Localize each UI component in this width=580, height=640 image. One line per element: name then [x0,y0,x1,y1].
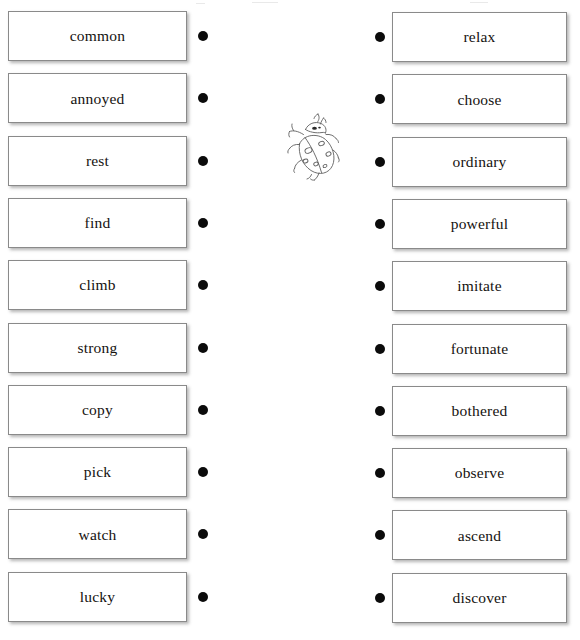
word-card-climb[interactable]: climb [8,260,187,310]
word-card-discover[interactable]: discover [392,573,567,623]
word-label: pick [84,464,112,480]
ladybug-icon [285,110,343,184]
word-label: imitate [457,278,501,294]
word-label: strong [78,340,118,356]
match-bullet-find[interactable] [198,218,208,228]
word-label: climb [79,277,115,293]
match-bullet-climb[interactable] [198,280,208,290]
word-card-copy[interactable]: copy [8,385,187,435]
word-card-bothered[interactable]: bothered [392,386,567,436]
match-bullet-imitate[interactable] [375,281,385,291]
word-card-relax[interactable]: relax [392,12,567,62]
match-bullet-rest[interactable] [198,156,208,166]
word-card-strong[interactable]: strong [8,323,187,373]
match-bullet-ascend[interactable] [375,530,385,540]
word-label: rest [86,153,109,169]
word-card-pick[interactable]: pick [8,447,187,497]
match-bullet-pick[interactable] [198,467,208,477]
match-bullet-lucky[interactable] [198,592,208,602]
word-label: annoyed [71,91,125,107]
match-bullet-watch[interactable] [198,529,208,539]
word-label: choose [457,92,501,108]
word-card-ascend[interactable]: ascend [392,510,567,560]
scan-artifact [470,2,488,3]
word-card-imitate[interactable]: imitate [392,261,567,311]
word-label: lucky [80,589,115,605]
word-label: discover [452,590,506,606]
word-card-observe[interactable]: observe [392,448,567,498]
match-bullet-relax[interactable] [375,32,385,42]
word-label: ascend [458,528,501,544]
word-label: observe [455,465,505,481]
match-bullet-discover[interactable] [375,593,385,603]
word-card-annoyed[interactable]: annoyed [8,73,187,123]
match-bullet-strong[interactable] [198,343,208,353]
match-bullet-powerful[interactable] [375,219,385,229]
word-card-fortunate[interactable]: fortunate [392,324,567,374]
word-label: find [85,215,111,231]
word-label: copy [82,402,113,418]
word-label: watch [78,527,116,543]
word-card-common[interactable]: common [8,11,187,61]
scan-artifact [196,3,205,4]
word-label: powerful [451,216,509,232]
match-bullet-observe[interactable] [375,468,385,478]
match-bullet-choose[interactable] [375,94,385,104]
vocabulary-matching-worksheet: commonannoyedrestfindclimbstrongcopypick… [0,0,580,640]
scan-artifact [252,2,278,3]
word-label: ordinary [452,154,506,170]
word-label: common [70,28,125,44]
word-card-rest[interactable]: rest [8,136,187,186]
match-bullet-annoyed[interactable] [198,93,208,103]
word-card-watch[interactable]: watch [8,509,187,559]
word-card-choose[interactable]: choose [392,74,567,124]
word-label: fortunate [451,341,509,357]
word-card-ordinary[interactable]: ordinary [392,137,567,187]
word-label: bothered [452,403,508,419]
match-bullet-fortunate[interactable] [375,344,385,354]
match-bullet-bothered[interactable] [375,406,385,416]
word-card-find[interactable]: find [8,198,187,248]
word-card-lucky[interactable]: lucky [8,572,187,622]
word-label: relax [464,29,496,45]
match-bullet-copy[interactable] [198,405,208,415]
match-bullet-common[interactable] [198,31,208,41]
word-card-powerful[interactable]: powerful [392,199,567,249]
match-bullet-ordinary[interactable] [375,157,385,167]
